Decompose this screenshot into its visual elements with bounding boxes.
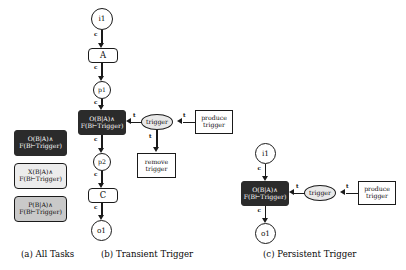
- panel-b-arrowhead-produce-to-trigger: [177, 118, 182, 124]
- panel-c-edge-label-t-2: t: [346, 183, 349, 189]
- panel-b-arrowhead-trigger-to-remove: [153, 147, 159, 152]
- panel-b-edge-label-c-6: c: [94, 204, 97, 210]
- panel-b-edge-main-to-p2: [101, 135, 102, 149]
- panel-b-edge-label-c-4: c: [94, 136, 97, 142]
- panel-b-input-label: i1: [98, 15, 105, 23]
- panel-b-node-remove-trigger: remove trigger: [137, 153, 176, 178]
- panel-b-node-task-c: C: [88, 188, 118, 203]
- panel-c-edge-label-t-1: t: [296, 183, 299, 189]
- panel-b-node-place-p1: p1: [93, 81, 111, 99]
- caption-panel-a: (a) All Tasks: [21, 249, 74, 259]
- panel-b-node-trigger: trigger: [141, 114, 173, 130]
- panel-b-edge-label-c-5: c: [94, 171, 97, 177]
- panel-b-remove-trigger-line2: trigger: [146, 166, 168, 173]
- panel-b-edge-label-c-1: c: [94, 31, 97, 37]
- panel-c-arrowhead-produce-to-trigger: [340, 189, 345, 195]
- panel-c-node-main-task: O(B|A)∧ F(B⊢Trigger): [241, 181, 289, 206]
- panel-b-arrowhead-trigger-to-main: [126, 118, 131, 124]
- panel-b-edge-label-t-3: t: [149, 133, 152, 139]
- panel-c-arrowhead-trigger-to-main: [289, 189, 294, 195]
- panel-b-main-task-line2: F(B⊢Trigger): [81, 123, 124, 130]
- panel-c-node-output: o1: [255, 223, 276, 244]
- panel-b-edge-input-to-a: [101, 30, 102, 44]
- panel-b-output-label: o1: [97, 227, 106, 235]
- legend-item-permission: P(B|A)∧ F(B⊢Trigger): [14, 196, 67, 222]
- panel-b-trigger-label: trigger: [146, 119, 168, 126]
- panel-b-place-p2-label: p2: [98, 159, 106, 166]
- legend-exclusion-line2: F(B⊢Trigger): [19, 176, 62, 183]
- legend-item-exclusion: X(B|A)∧ F(B⊢Trigger): [14, 163, 67, 189]
- panel-c-node-produce-trigger: produce trigger: [358, 181, 396, 205]
- panel-c-main-task-line2: F(B⊢Trigger): [244, 194, 287, 201]
- panel-c-node-trigger: trigger: [304, 185, 336, 201]
- panel-c-edge-trigger-to-main: [294, 193, 305, 194]
- panel-c-output-label: o1: [261, 230, 270, 238]
- panel-b-node-task-a: A: [88, 48, 118, 63]
- panel-c-edge-produce-to-trigger: [346, 193, 358, 194]
- panel-c-produce-trigger-line2: trigger: [366, 193, 388, 200]
- panel-b-node-produce-trigger: produce trigger: [195, 110, 233, 134]
- panel-c-edge-label-c-2: c: [258, 207, 261, 213]
- legend-item-obligation: O(B|A)∧ F(B⊢Trigger): [14, 130, 67, 156]
- legend-obligation-line2: F(B⊢Trigger): [19, 143, 62, 150]
- panel-c-edge-label-c-1: c: [258, 165, 261, 171]
- caption-panel-b: (b) Transient Trigger: [101, 249, 193, 259]
- panel-b-place-p1-label: p1: [98, 87, 106, 94]
- panel-b-edge-a-to-p1: [101, 63, 102, 77]
- panel-b-produce-trigger-line2: trigger: [203, 122, 225, 129]
- panel-c-input-label: i1: [262, 150, 269, 158]
- panel-b-node-place-p2: p2: [93, 153, 111, 171]
- panel-b-edge-trigger-to-remove: [156, 130, 157, 148]
- panel-b-edge-produce-to-trigger: [183, 122, 195, 123]
- panel-b-edge-label-t-1: t: [133, 112, 136, 118]
- panel-b-node-main-task: O(B|A)∧ F(B⊢Trigger): [78, 110, 126, 135]
- panel-b-task-a-label: A: [100, 51, 106, 60]
- figure-canvas: i1 c A c p1 c O(B|A)∧ F(B⊢Trigger) c p2 …: [0, 0, 406, 270]
- legend-permission-line2: F(B⊢Trigger): [19, 209, 62, 216]
- panel-b-task-c-label: C: [100, 191, 106, 200]
- panel-c-node-input: i1: [255, 143, 276, 164]
- panel-b-edge-label-c-3: c: [94, 99, 97, 105]
- panel-b-node-output: o1: [91, 220, 112, 241]
- panel-b-edge-trigger-to-main: [131, 122, 142, 123]
- caption-panel-c: (c) Persistent Trigger: [263, 249, 356, 259]
- panel-b-edge-label-t-2: t: [183, 112, 186, 118]
- panel-c-trigger-label: trigger: [309, 190, 331, 197]
- panel-b-node-input: i1: [91, 8, 113, 30]
- panel-b-edge-label-c-2: c: [94, 64, 97, 70]
